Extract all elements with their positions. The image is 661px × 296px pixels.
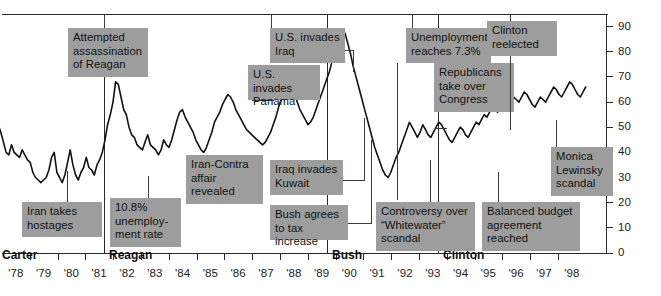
leader-iraq-kuwait-v bbox=[364, 118, 365, 180]
leader-republicans bbox=[435, 128, 447, 129]
y-label-70: 70 bbox=[618, 71, 631, 83]
callout-unemployment-108: 10.8% unemploy- ment rate bbox=[110, 198, 181, 247]
leader-whitewater bbox=[430, 160, 431, 202]
x-tick-89 bbox=[308, 253, 309, 260]
x-tick-87 bbox=[252, 253, 253, 260]
callout-iraq-kuwait: Iraq invades Kuwait bbox=[270, 160, 343, 195]
callout-invades-panama: U.S. invades Panama bbox=[248, 65, 320, 100]
x-label-98: '98 bbox=[555, 268, 589, 280]
y-label-60: 60 bbox=[618, 96, 631, 108]
callout-republicans: Republicans take over Congress bbox=[434, 63, 514, 112]
president-label-carter: Carter bbox=[2, 249, 37, 261]
y-tick-80 bbox=[606, 51, 613, 52]
y-tick-50 bbox=[606, 127, 613, 128]
leader-unemployment-73-top bbox=[412, 14, 413, 28]
callout-clinton-reelected: Clinton reelected bbox=[487, 21, 557, 56]
leader-clinton-reelected bbox=[510, 49, 511, 130]
y-tick-0 bbox=[606, 253, 613, 254]
x-tick-85 bbox=[197, 253, 198, 260]
x-tick-88 bbox=[280, 253, 281, 260]
callout-iran-hostages: Iran takes hostages bbox=[22, 202, 102, 237]
y-tick-10 bbox=[606, 227, 613, 228]
approval-rating-chart: 9080706050403020100 '77'78'79'80'81'82'8… bbox=[0, 0, 661, 296]
y-label-30: 30 bbox=[618, 172, 631, 184]
y-label-0: 0 bbox=[618, 247, 625, 259]
x-tick-86 bbox=[224, 253, 225, 260]
leader-invades-iraq-v bbox=[353, 50, 354, 72]
callout-balanced-budget: Balanced budget agreement reached bbox=[482, 202, 580, 251]
leader-iran-hostages bbox=[67, 171, 68, 202]
leader-reagan-assassination bbox=[104, 14, 105, 28]
x-tick-98 bbox=[558, 253, 559, 260]
y-label-20: 20 bbox=[618, 197, 631, 209]
y-label-80: 80 bbox=[618, 46, 631, 58]
x-tick-80 bbox=[58, 253, 59, 260]
leader-unemployment-108 bbox=[148, 176, 149, 198]
x-tick-93 bbox=[419, 253, 420, 260]
president-label-bush: Bush bbox=[332, 249, 362, 261]
leader-lewinsky bbox=[556, 120, 557, 147]
callout-invades-iraq: U.S. invades Iraq bbox=[270, 28, 345, 63]
y-label-50: 50 bbox=[618, 121, 631, 133]
y-tick-60 bbox=[606, 102, 613, 103]
x-tick-92 bbox=[391, 253, 392, 260]
x-tick-91 bbox=[363, 253, 364, 260]
leader-bush-tax-v bbox=[371, 140, 372, 223]
leader-invades-iraq-top bbox=[271, 14, 272, 28]
callout-iran-contra: Iran-Contra affair revealed bbox=[186, 155, 263, 204]
leader-balanced-budget bbox=[498, 172, 499, 202]
y-label-40: 40 bbox=[618, 146, 631, 158]
callout-unemployment-73: Unemployment reaches 7.3% bbox=[406, 28, 491, 63]
callout-lewinsky: Monica Lewinsky scandal bbox=[551, 147, 613, 196]
y-label-10: 10 bbox=[618, 222, 631, 234]
callout-reagan-assassination: Attempted assassination of Reagan bbox=[68, 28, 148, 77]
x-tick-96 bbox=[502, 253, 503, 260]
y-tick-70 bbox=[606, 76, 613, 77]
x-tick-84 bbox=[169, 253, 170, 260]
callout-bush-tax: Bush agrees to tax increase bbox=[270, 205, 348, 240]
y-label-90: 90 bbox=[618, 21, 631, 33]
x-tick-97 bbox=[530, 253, 531, 260]
y-tick-90 bbox=[606, 26, 613, 27]
president-label-reagan: Reagan bbox=[109, 249, 152, 261]
leader-bush-tax-h bbox=[347, 223, 372, 224]
x-tick-81 bbox=[85, 253, 86, 260]
leader-unemployment-73 bbox=[397, 63, 398, 200]
y-tick-20 bbox=[606, 202, 613, 203]
callout-whitewater: Controversy over “Whitewater” scandal bbox=[376, 202, 475, 251]
